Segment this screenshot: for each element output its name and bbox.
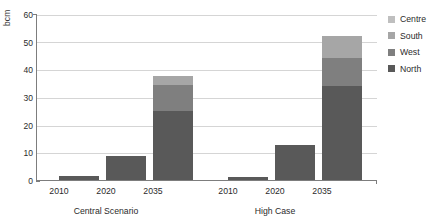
y-tick-label-10: 10 xyxy=(24,148,33,158)
legend-label-west: West xyxy=(400,47,420,57)
legend-label-south: South xyxy=(400,31,423,41)
x-tick-label-highcase-2020: 2020 xyxy=(255,186,295,196)
legend-item-south[interactable]: South xyxy=(388,28,426,45)
bar-highcase-2010 xyxy=(228,177,268,180)
legend-swatch-north-icon xyxy=(388,65,395,72)
bar-segment-north xyxy=(59,176,99,180)
bar-segment-north xyxy=(228,177,268,180)
bar-segment-west xyxy=(153,85,193,111)
y-tick-label-0: 0 xyxy=(28,176,33,186)
y-tick-mark-0 xyxy=(36,181,40,182)
bar-segment-south xyxy=(322,36,362,58)
plot-area xyxy=(36,14,377,181)
gridline-60 xyxy=(36,15,377,16)
y-tick-label-40: 40 xyxy=(24,65,33,75)
y-axis-label: bcm xyxy=(2,10,12,26)
group-label-high-case: High Case xyxy=(232,206,318,216)
bar-segment-north xyxy=(106,156,146,180)
x-axis-right-cap xyxy=(376,180,377,184)
bar-segment-north xyxy=(275,145,315,180)
x-axis-line xyxy=(36,180,377,181)
bar-central-2035 xyxy=(153,76,193,180)
chart-container: bcm 0 10 20 30 40 50 60 xyxy=(0,0,444,224)
y-axis-tick-labels: 0 10 20 30 40 50 60 xyxy=(12,14,33,181)
bar-central-2010 xyxy=(59,176,99,180)
legend-item-west[interactable]: West xyxy=(388,44,426,61)
y-axis-line xyxy=(36,14,37,181)
bar-segment-north xyxy=(322,86,362,180)
x-tick-label-highcase-2010: 2010 xyxy=(208,186,248,196)
legend-item-centre[interactable]: Centre xyxy=(388,11,426,28)
legend-swatch-south-icon xyxy=(388,32,395,39)
legend-swatch-west-icon xyxy=(388,49,395,56)
bar-segment-north xyxy=(153,111,193,180)
legend-label-north: North xyxy=(400,64,421,74)
x-tick-label-central-2010: 2010 xyxy=(39,186,79,196)
bar-highcase-2035 xyxy=(322,36,362,180)
bar-segment-south xyxy=(153,76,193,84)
y-axis-top-cap xyxy=(33,14,37,15)
legend-label-centre: Centre xyxy=(400,14,426,24)
bar-segment-west xyxy=(322,58,362,86)
y-tick-label-50: 50 xyxy=(24,38,33,48)
legend-swatch-centre-icon xyxy=(388,16,395,23)
x-tick-label-highcase-2035: 2035 xyxy=(302,186,342,196)
legend-item-north[interactable]: North xyxy=(388,61,426,78)
bar-highcase-2020 xyxy=(275,145,315,180)
x-tick-label-central-2020: 2020 xyxy=(86,186,126,196)
x-tick-label-central-2035: 2035 xyxy=(133,186,173,196)
bar-central-2020 xyxy=(106,156,146,180)
y-tick-label-30: 30 xyxy=(24,93,33,103)
group-label-central-scenario: Central Scenario xyxy=(46,206,166,216)
y-tick-label-20: 20 xyxy=(24,121,33,131)
legend: Centre South West North xyxy=(388,11,426,77)
y-tick-label-60: 60 xyxy=(24,10,33,20)
